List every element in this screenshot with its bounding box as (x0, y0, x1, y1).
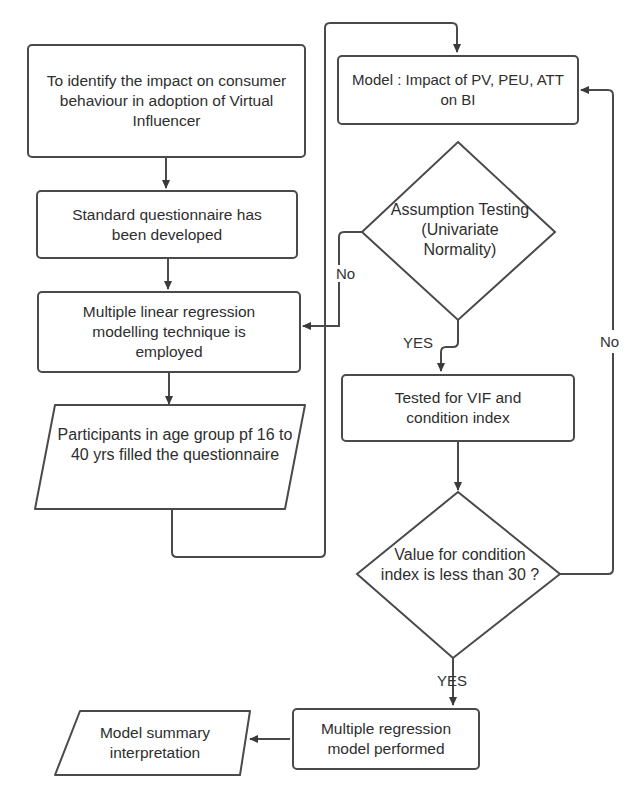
condition-check-text: Value for condition index is less than 3… (380, 545, 540, 585)
mlr-technique-text: Multiple linear regression modelling tec… (67, 302, 271, 362)
questionnaire-text: Standard questionnaire has been develope… (58, 205, 276, 245)
vif-test-text: Tested for VIF and condition index (383, 388, 533, 428)
objective-box: To identify the impact on consumer behav… (27, 44, 306, 158)
regression-performed-text: Multiple regression model performed (308, 719, 464, 759)
regression-performed-box: Multiple regression model performed (292, 708, 480, 770)
vif-test-box: Tested for VIF and condition index (341, 374, 575, 442)
assumption-no-label: No (336, 265, 355, 282)
model-text: Model : Impact of PV, PEU, ATT on BI (347, 70, 569, 110)
assumption-testing-text: Assumption Testing (Univariate Normality… (385, 200, 535, 260)
mlr-technique-box: Multiple linear regression modelling tec… (37, 291, 301, 373)
assumption-yes-label: YES (403, 334, 433, 351)
condition-yes-label: YES (437, 672, 467, 689)
arrow-assumption-no-to-mlr (303, 232, 365, 326)
participants-text: Participants in age group pf 16 to 40 yr… (50, 425, 300, 465)
summary-text: Model summary interpretation (75, 723, 235, 763)
arrow-assumption-yes-to-vif (441, 320, 458, 371)
questionnaire-box: Standard questionnaire has been develope… (36, 190, 298, 259)
objective-text: To identify the impact on consumer behav… (39, 71, 294, 131)
model-box: Model : Impact of PV, PEU, ATT on BI (337, 55, 579, 125)
condition-no-label: No (600, 330, 619, 353)
